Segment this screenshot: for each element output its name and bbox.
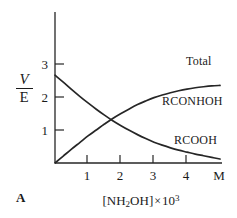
x-axis-ticks <box>87 155 186 163</box>
multiplication-sign-icon: × <box>153 194 162 208</box>
panel-letter-a: A <box>16 191 25 204</box>
x-tick-label-4: 4 <box>176 169 196 182</box>
x-axis-caption: [NH2OH]×103 <box>55 194 227 209</box>
y-tick-label-3: 3 <box>30 58 48 71</box>
y-tick-label-2: 2 <box>30 91 48 104</box>
figure-panel-a: V E 1 2 3 1 2 3 4 M Total RCONHOH RCOOH … <box>0 0 237 218</box>
curve-label-rconhoh: RCONHOH <box>162 95 223 107</box>
curve-label-total: Total <box>186 55 212 67</box>
y-axis-ticks <box>55 64 64 130</box>
curve-label-rcooh: RCOOH <box>174 134 217 146</box>
y-axis-label-numerator: V <box>10 72 38 88</box>
x-tick-label-2: 2 <box>110 169 130 182</box>
x-caption-base: 10 <box>162 193 175 208</box>
x-caption-prefix: [NH <box>103 193 126 208</box>
x-caption-mid: OH] <box>130 193 153 208</box>
x-caption-exponent: 3 <box>175 193 180 203</box>
x-tick-label-1: 1 <box>77 169 97 182</box>
x-tick-label-3: 3 <box>143 169 163 182</box>
plot-area <box>0 0 237 218</box>
x-axis-end-label-molar: M <box>208 169 230 182</box>
y-tick-label-1: 1 <box>30 124 48 137</box>
